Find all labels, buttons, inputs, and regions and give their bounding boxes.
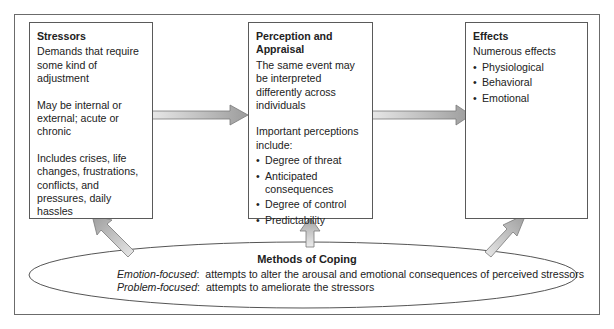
perception-intro: The same event may be interpreted differ… (256, 59, 366, 113)
perception-list-heading: Important perceptions include: (256, 125, 366, 152)
stressors-box: Stressors Demands that require some kind… (29, 22, 153, 219)
effects-list: Physiological Behavioral Emotional (473, 61, 581, 105)
list-item: Anticipated consequences (256, 170, 366, 197)
list-item: Behavioral (473, 76, 581, 89)
arrow-coping-to-effects (485, 214, 526, 257)
list-item: Predictability (256, 214, 366, 227)
arrow-coping-to-stressors (92, 215, 134, 257)
stressors-title: Stressors (37, 30, 146, 43)
stressors-paragraph: May be internal or external; acute or ch… (37, 99, 146, 139)
arrow-stressors-to-perception (145, 105, 248, 125)
effects-title: Effects (473, 30, 581, 43)
stressors-paragraph: Includes crises, life changes, frustrati… (37, 152, 146, 219)
list-item: Physiological (473, 61, 581, 74)
list-item: Emotional (473, 92, 581, 105)
perception-list: Degree of threat Anticipated consequence… (256, 154, 366, 227)
perception-title: Perception and Appraisal (256, 30, 366, 57)
perception-box: Perception and Appraisal The same event … (248, 22, 373, 219)
list-item: Degree of control (256, 198, 366, 211)
list-item: Degree of threat (256, 154, 366, 167)
effects-box: Effects Numerous effects Physiological B… (465, 22, 588, 219)
stressors-paragraph: Demands that require some kind of adjust… (37, 45, 146, 85)
effects-intro: Numerous effects (473, 45, 581, 58)
arrow-perception-to-effects (365, 105, 471, 125)
